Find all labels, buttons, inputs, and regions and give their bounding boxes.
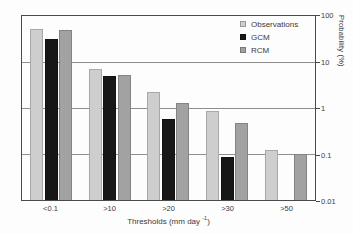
y-tick-label: 0.01 — [321, 197, 336, 206]
bar-slot — [176, 16, 189, 200]
x-axis-title-suffix: ) — [207, 217, 210, 226]
y-tick-mark — [316, 201, 320, 202]
bar-observations — [265, 150, 278, 200]
x-tick-label: >20 — [147, 204, 190, 213]
bar-group — [30, 16, 73, 200]
legend-label-rcm: RCM — [251, 46, 269, 55]
bar-gcm — [221, 157, 234, 200]
bar-slot — [89, 16, 102, 200]
y-tick-mark — [316, 62, 320, 63]
legend-item-rcm: RCM — [240, 45, 298, 55]
x-axis-labels: <0.1>10>20>30>50 — [21, 204, 316, 213]
bar-rcm — [176, 103, 189, 200]
x-tick-label: >10 — [88, 204, 131, 213]
legend: Observations GCM RCM — [240, 19, 298, 55]
bar-slot — [147, 16, 160, 200]
bar-rcm — [294, 154, 307, 200]
bar-slot — [103, 16, 116, 200]
y-axis-title: Probability (%) — [337, 15, 346, 201]
y-tick-label: 0.1 — [321, 150, 331, 159]
x-axis-title: Thresholds (mm day -1) — [21, 215, 316, 226]
x-axis-title-prefix: Thresholds (mm day — [127, 217, 202, 226]
bar-rcm — [235, 123, 248, 200]
y-tick-mark — [316, 15, 320, 16]
y-tick-label: 10 — [321, 57, 329, 66]
legend-label-observations: Observations — [251, 20, 298, 29]
bar-gcm — [45, 39, 58, 200]
y-tick-mark — [316, 155, 320, 156]
legend-item-gcm: GCM — [240, 32, 298, 42]
bar-group — [147, 16, 190, 200]
bar-slot — [59, 16, 72, 200]
bar-rcm — [118, 75, 131, 200]
bar-observations — [206, 111, 219, 200]
bar-gcm — [103, 76, 116, 200]
x-tick-label: <0.1 — [29, 204, 72, 213]
y-tick-mark — [316, 108, 320, 109]
observations-swatch-icon — [240, 21, 246, 27]
plot-area: Observations GCM RCM — [21, 15, 316, 201]
bar-slot — [118, 16, 131, 200]
bar-observations — [147, 92, 160, 200]
y-tick-label: 1 — [321, 104, 325, 113]
x-tick-label: >30 — [206, 204, 249, 213]
x-axis-title-superscript: -1 — [202, 215, 207, 221]
legend-item-observations: Observations — [240, 19, 298, 29]
bar-rcm — [59, 30, 72, 200]
legend-label-gcm: GCM — [251, 33, 270, 42]
y-tick-label: 100 — [321, 11, 334, 20]
bar-slot — [221, 16, 234, 200]
bar-observations — [89, 69, 102, 200]
rcm-swatch-icon — [240, 47, 246, 53]
x-tick-label: >50 — [265, 204, 308, 213]
bar-slot — [206, 16, 219, 200]
bar-slot — [45, 16, 58, 200]
figure: Observations GCM RCM 1001010.10.01 Proba… — [0, 0, 353, 234]
bar-gcm — [162, 119, 175, 200]
bar-slot — [30, 16, 43, 200]
bar-group — [88, 16, 131, 200]
bar-slot — [162, 16, 175, 200]
bar-observations — [30, 29, 43, 200]
gcm-swatch-icon — [240, 34, 246, 40]
